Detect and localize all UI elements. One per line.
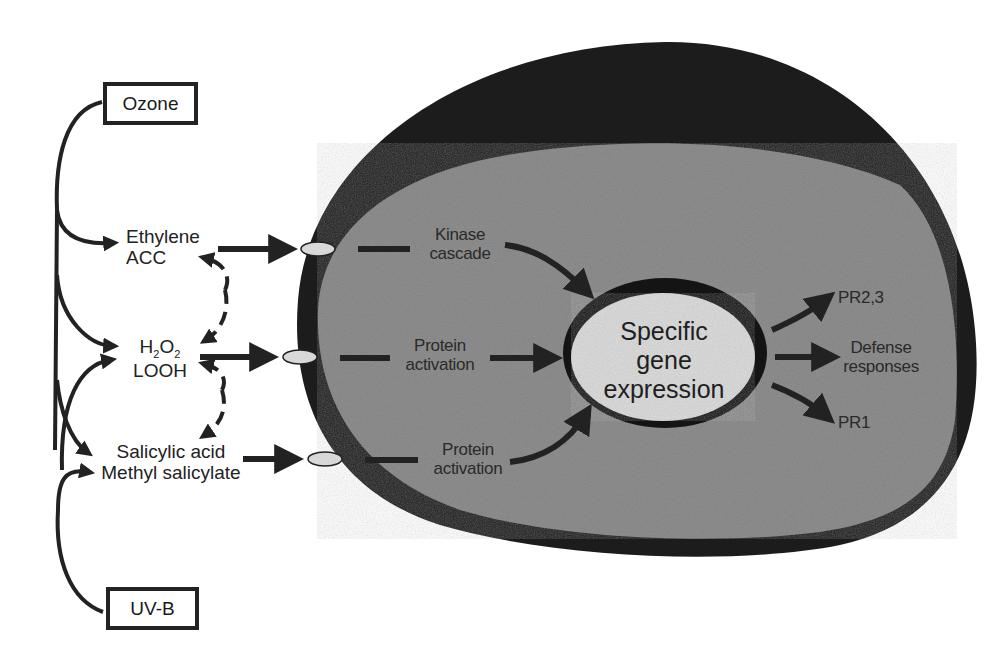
output-pr1-label: PR1 [838, 413, 870, 432]
stimulus-ozone-label: Ozone [123, 93, 179, 115]
pathway-protein-activation-1: Protein activation [393, 336, 487, 374]
receptor-h2o2 [283, 350, 317, 364]
signal-ethylene-line2: ACC [126, 247, 200, 268]
output-defense-responses: Defense responses [830, 338, 932, 376]
output-defense-line2: responses [830, 357, 932, 376]
signal-salicylic-line1: Salicylic acid [92, 441, 250, 462]
receptor-salicylic [308, 452, 342, 466]
signal-h2o2-line1: H2O2 [128, 336, 192, 360]
nucleus-label: Specific gene expression [583, 317, 745, 403]
signal-ethylene: Ethylene ACC [126, 226, 200, 269]
output-pr23-label: PR2,3 [838, 288, 884, 307]
signal-ethylene-line1: Ethylene [126, 226, 200, 247]
signal-salicylic-line2: Methyl salicylate [92, 462, 250, 483]
output-pr1: PR1 [838, 413, 870, 432]
pathway-protein2-line1: Protein [421, 440, 515, 459]
nucleus-line1: Specific [583, 317, 745, 346]
stimulus-uvb-box: UV-B [106, 587, 199, 630]
pathway-protein1-line1: Protein [393, 336, 487, 355]
pathway-kinase-line2: cascade [418, 244, 502, 263]
signal-crosstalk-arrows [205, 258, 227, 435]
pathway-kinase-line1: Kinase [418, 225, 502, 244]
pathway-protein2-line2: activation [421, 459, 515, 478]
output-defense-line1: Defense [830, 338, 932, 357]
signal-to-receptor-arrows [200, 249, 291, 459]
signal-h2o2: H2O2 LOOH [128, 336, 192, 381]
ozone-connector-arrows [55, 102, 112, 452]
stimulus-ozone-box: Ozone [103, 82, 198, 125]
stimulus-uvb-label: UV-B [130, 598, 174, 620]
pathway-protein-activation-2: Protein activation [421, 440, 515, 478]
nucleus-line2: gene [583, 346, 745, 375]
nucleus-line3: expression [583, 375, 745, 404]
pathway-protein1-line2: activation [393, 355, 487, 374]
signal-h2o2-line2: LOOH [128, 360, 192, 381]
output-pr23: PR2,3 [838, 288, 884, 307]
signal-salicylic: Salicylic acid Methyl salicylate [92, 441, 250, 484]
pathway-kinase-cascade: Kinase cascade [418, 225, 502, 263]
receptor-ethylene [301, 242, 335, 256]
uvb-connector-arrows [58, 360, 110, 612]
